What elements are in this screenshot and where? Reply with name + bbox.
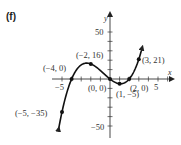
x-tick-label-5: 5 [154,82,158,92]
y-axis [108,14,113,138]
data-point [118,82,122,86]
data-point [137,57,141,61]
data-point [108,77,112,81]
point-label-neg5-neg35: (−5, −35) [15,108,47,118]
point-label-2-0: (2, 0) [130,83,149,93]
function-graph: y x −5 5 50 −50 (−5, −35) (−4, 0) (−2, 1… [0,0,181,145]
y-tick-label-50: 50 [95,27,104,37]
point-label-3-21: (3, 21) [142,55,165,65]
x-tick-label-neg5: −5 [55,82,64,92]
point-label-neg2-16: (−2, 16) [76,50,104,60]
x-axis-label: x [167,68,172,77]
point-label-neg4-0: (−4, 0) [43,63,66,73]
point-label-0-0: (0, 0) [88,83,107,93]
data-point [60,110,64,114]
data-point [127,77,131,81]
y-tick-label-neg50: −50 [91,122,104,132]
data-point [89,62,93,66]
y-axis-label: y [103,14,108,23]
data-point [70,77,74,81]
